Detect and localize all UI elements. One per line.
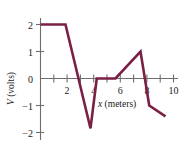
plot-area: 2 1 0 −1 −2 2 4 6 8 10 x (meters) V (vol…: [0, 0, 187, 152]
y-tick-label-2: 2: [28, 20, 33, 31]
y-axis-title: V (volts): [6, 72, 17, 105]
y-tick-label-1: 1: [28, 47, 33, 58]
x-axis-title: x (meters): [97, 99, 136, 110]
x-tick-label-10: 10: [169, 85, 179, 96]
y-tick-label-minus-1: −1: [22, 101, 33, 112]
x-axis-title-unit: (meters): [102, 99, 136, 110]
x-tick-label-6: 6: [118, 85, 123, 96]
y-tick-label-minus-2: −2: [22, 128, 33, 139]
x-tick-label-2: 2: [65, 85, 70, 96]
voltage-vs-position-figure: 2 1 0 −1 −2 2 4 6 8 10 x (meters) V (vol…: [0, 0, 187, 152]
y-tick-label-0: 0: [28, 74, 33, 85]
y-axis-title-unit: (volts): [6, 72, 17, 99]
